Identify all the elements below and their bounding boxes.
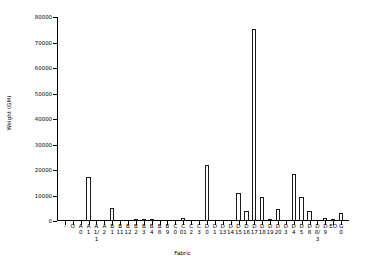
bar [205,165,209,221]
x-tick-label-line: 0 [173,229,177,235]
x-tick-label: D16 [243,223,250,236]
x-axis-line [57,220,349,221]
x-tick-label: A2 [102,223,106,236]
x-tick-label: D3 [284,223,288,236]
bar [252,29,256,221]
y-tick-mark [53,196,57,197]
y-tick-label: 70000 [35,40,52,46]
x-tick-label: D0 [205,223,209,236]
x-tick-label-line: 2 [189,229,193,235]
y-axis-line [57,17,58,221]
bar [236,193,240,221]
x-tick-label: B9 [166,223,170,236]
x-tick-label-line: 3 [284,229,288,235]
bar [299,197,303,221]
y-tick-mark [53,43,57,44]
x-axis-title-text: Fabric [174,250,191,256]
x-tick-label-line: 16 [243,229,250,235]
y-tick-mark [53,119,57,120]
x-tick-label-line: O [71,223,75,229]
x-tick-label: B3 [142,223,146,236]
x-tick-label-line: 20 [274,229,281,235]
bar [142,219,146,221]
x-tick-label-line: 3 [142,229,146,235]
bar [260,197,264,221]
y-tick-mark [53,17,57,18]
bar [339,213,343,221]
x-tick-label: EO [329,223,337,229]
x-tick-label: D14 [227,223,234,236]
x-tick-label-line: - [64,223,66,229]
x-tick-label-line: 1 [213,229,217,235]
x-tick-label-line: 1/ [94,229,99,235]
y-tick-mark [53,68,57,69]
x-tick-label-line: 11 [117,229,124,235]
y-tick-label: 60000 [35,65,52,71]
x-tick-label-line: 2 [134,229,138,235]
y-tick-mark [53,94,57,95]
x-tick-label-line: 14 [227,229,234,235]
y-axis-title-text: Weight (GM) [6,95,12,130]
x-tick-label-line: 0 [339,229,343,235]
x-tick-label: D20 [274,223,281,236]
x-tick-label: B2 [134,223,138,236]
x-tick-label: D15 [235,223,242,236]
x-tick-label: C01 [180,223,187,236]
x-tick-label-line: 9 [323,229,327,235]
x-tick-label: B8 [158,223,162,236]
x-tick-label-line: 3 [315,236,320,242]
x-tick-label: B12 [124,223,131,236]
x-tick-label: A1/1 [94,223,99,242]
x-tick-label: C3 [197,223,201,236]
x-tick-label: D8 [307,223,311,236]
bar [268,219,272,221]
bar [331,219,335,221]
y-tick-mark [53,145,57,146]
x-tick-label: D19 [267,223,274,236]
y-tick-label: 30000 [35,142,52,148]
x-tick-label-line: 8 [307,229,311,235]
x-tick-label: G0 [339,223,343,236]
x-tick-label-line: 4 [292,229,296,235]
x-tick-label-line: 18 [259,229,266,235]
x-tick-label: A1 [87,223,91,236]
y-tick-mark [53,221,57,222]
bar [323,218,327,221]
bar [86,177,90,221]
x-tick-label: D1 [213,223,217,236]
y-tick-label: 80000 [35,14,52,20]
x-tick-label-line: 4 [150,229,154,235]
bar [307,211,311,221]
plot-area: 0100002000030000400005000060000700008000… [57,17,349,221]
x-tick-label: O [71,223,75,229]
bar-chart: Weight (GM) 0100002000030000400005000060… [0,0,365,271]
x-tick-label: B1 [110,223,114,236]
x-tick-label-line: 0 [205,229,209,235]
x-tick-label: D8/3 [315,223,320,242]
x-tick-label: D5 [299,223,303,236]
x-tick-label-line: 1 [94,236,99,242]
x-tick-label-line: 01 [180,229,187,235]
x-tick-label-line: 13 [219,229,226,235]
y-tick-label: 40000 [35,116,52,122]
bar [150,219,154,221]
x-tick-label-line: 1 [87,229,91,235]
x-tick-label-line: 8 [158,229,162,235]
y-tick-mark [53,170,57,171]
x-tick-label: B4 [150,223,154,236]
x-tick-label: A0 [79,223,83,236]
x-tick-label: B11 [117,223,124,236]
x-tick-label-line: 5 [299,229,303,235]
x-axis-title: Fabric [0,250,365,256]
x-tick-label-line: 9 [166,229,170,235]
x-tick-label-line: 19 [267,229,274,235]
x-tick-label: D17 [251,223,258,236]
x-tick-label: D13 [219,223,226,236]
x-tick-label-line: 17 [251,229,258,235]
y-tick-label: 50000 [35,91,52,97]
bar [110,208,114,221]
x-tick-label: D4 [292,223,296,236]
bar [181,218,185,221]
y-axis-title: Weight (GM) [2,0,16,225]
bar [244,211,248,221]
